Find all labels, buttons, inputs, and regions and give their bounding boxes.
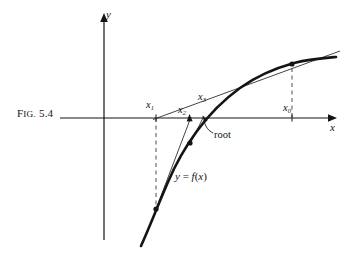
- point-label-x1-base: x: [146, 99, 151, 110]
- point-label-x3: x3: [198, 92, 206, 103]
- root-label: root: [214, 130, 231, 141]
- y-axis-label: y: [106, 9, 111, 20]
- caption-number: 5.4: [39, 107, 53, 119]
- point-label-x3-base: x: [198, 91, 203, 102]
- function-curve: [141, 57, 336, 246]
- function-label-equals: =: [183, 170, 189, 182]
- point-label-x1: x1: [146, 100, 154, 111]
- figure-canvas: [0, 0, 349, 256]
- x-axis-label: x: [330, 122, 335, 133]
- figure-caption: FIG. 5.4: [17, 108, 53, 119]
- point-label-x1-subscript: 1: [151, 104, 154, 111]
- point-label-x3-subscript: 3: [203, 96, 206, 103]
- function-label: y = f(x): [175, 171, 207, 182]
- point-label-x0: x0: [283, 103, 291, 114]
- curve-point-x2: [187, 140, 192, 145]
- curve-point-x0: [289, 61, 294, 66]
- point-label-x2: x2: [178, 105, 186, 116]
- point-label-x0-subscript: 0: [288, 107, 291, 114]
- function-label-paren-close: ): [203, 170, 207, 182]
- figure-container: FIG. 5.4 y x x1 x2 x3 x0 root y = f(x): [0, 0, 349, 256]
- function-label-y: y: [175, 170, 180, 182]
- point-label-x2-subscript: 2: [183, 109, 186, 116]
- point-label-x0-base: x: [283, 102, 288, 113]
- curve-point-x1: [153, 206, 158, 211]
- point-label-x2-base: x: [178, 104, 183, 115]
- caption-smallcaps: IG.: [23, 109, 36, 119]
